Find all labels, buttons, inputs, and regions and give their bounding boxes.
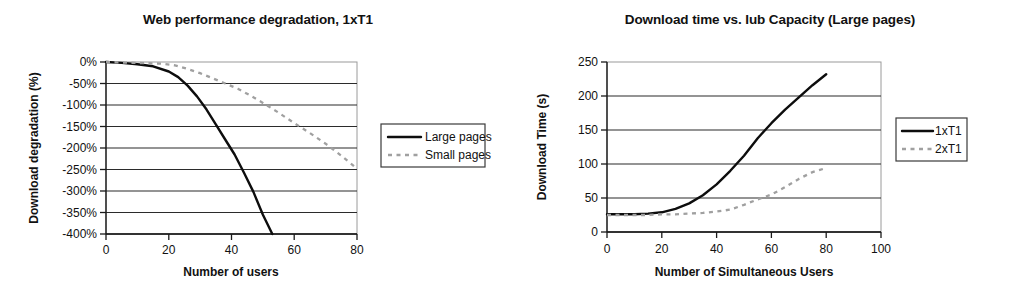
- x-tick-label: 60: [765, 242, 779, 256]
- y-tick-label: 100: [578, 157, 598, 171]
- figure-download-time-vs-iub-capacity: Download time vs. Iub Capacity (Large pa…: [508, 0, 1016, 294]
- y-tick-label: -50%: [69, 77, 97, 91]
- x-tick-label: 80: [350, 243, 364, 257]
- gridlines-right: [607, 96, 881, 232]
- x-tick-label: 0: [103, 243, 110, 257]
- x-tick-label: 100: [871, 242, 891, 256]
- y-tick-label: -250%: [62, 163, 97, 177]
- series-1xt1: [607, 74, 826, 214]
- x-axis-title-right: Number of Simultaneous Users: [655, 265, 834, 279]
- x-tick-label: 20: [162, 243, 176, 257]
- y-tick-label: -400%: [62, 227, 97, 241]
- y-ticks-right: [601, 62, 607, 232]
- gridlines-left: [106, 84, 357, 235]
- chart-right: 250 200 150 100 50 0 0 20 40 60 80 100: [508, 0, 1017, 294]
- y-tick-label: 0%: [80, 55, 98, 69]
- x-ticks-right: [607, 232, 881, 238]
- y-tick-label: -200%: [62, 141, 97, 155]
- x-tick-label: 40: [225, 243, 239, 257]
- figure-row: Web performance degradation, 1xT1: [0, 0, 1017, 294]
- y-axis-title-left: Download degradation (%): [27, 72, 41, 223]
- y-tick-label: -350%: [62, 206, 97, 220]
- x-tick-label: 40: [710, 242, 724, 256]
- y-axis-title-right: Download Time (s): [535, 94, 549, 200]
- y-tick-label: 0: [591, 225, 598, 239]
- y-tick-label: -100%: [62, 98, 97, 112]
- figure-web-performance-degradation: Web performance degradation, 1xT1: [0, 0, 508, 294]
- chart-left: 0% -50% -100% -150% -200% -250% -300% -3…: [0, 0, 508, 294]
- plot-frame-right: [607, 62, 881, 232]
- x-tick-label: 80: [820, 242, 834, 256]
- x-ticks-left: [106, 234, 357, 240]
- y-ticks-left: [100, 62, 106, 234]
- y-tick-label: 250: [578, 55, 598, 69]
- x-tick-label: 20: [655, 242, 669, 256]
- y-tick-label: 50: [585, 191, 599, 205]
- series-2xt1: [607, 168, 826, 215]
- x-tick-label: 0: [604, 242, 611, 256]
- y-tick-label: 200: [578, 89, 598, 103]
- y-tick-label: 150: [578, 123, 598, 137]
- y-tick-label: -150%: [62, 120, 97, 134]
- x-axis-title-left: Number of users: [183, 265, 279, 279]
- x-tick-label: 60: [288, 243, 302, 257]
- series-small-pages: [106, 62, 357, 169]
- y-tick-label: -300%: [62, 184, 97, 198]
